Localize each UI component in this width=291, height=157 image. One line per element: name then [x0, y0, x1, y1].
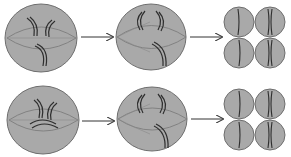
meiosis-diagram — [0, 0, 291, 157]
daughter-cell — [255, 120, 285, 150]
daughter-cell — [255, 38, 285, 68]
daughter-cell — [255, 89, 285, 119]
row-1 — [5, 4, 285, 72]
row-1-cell-1 — [5, 4, 77, 72]
row-2 — [7, 86, 285, 154]
daughter-cell — [224, 120, 254, 150]
daughter-cell — [255, 7, 285, 37]
row-1-daughter-cells — [224, 7, 285, 68]
row-2-cell-2 — [117, 87, 187, 151]
daughter-cell — [224, 7, 254, 37]
row-2-cell-1 — [7, 86, 79, 154]
row-2-daughter-cells — [224, 89, 285, 150]
daughter-cell — [224, 89, 254, 119]
daughter-cell — [224, 38, 254, 68]
row-1-cell-2 — [116, 4, 186, 70]
